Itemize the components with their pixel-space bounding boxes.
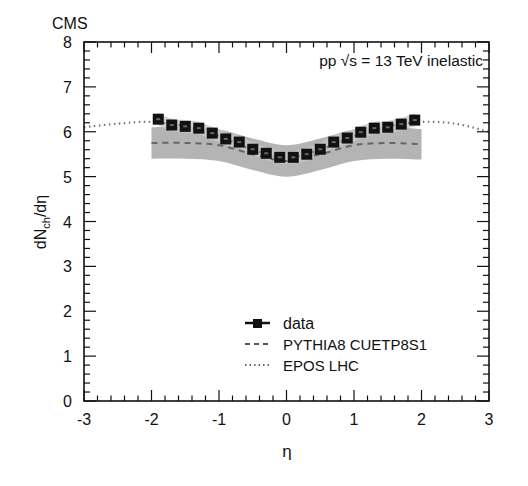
legend-label-epos: EPOS LHC bbox=[283, 357, 359, 374]
data-point-errbar bbox=[264, 152, 268, 154]
legend-label-pythia: PYTHIA8 CUETP8S1 bbox=[283, 336, 427, 353]
data-point-errbar bbox=[318, 148, 322, 150]
x-axis-label: η bbox=[282, 442, 291, 461]
data-point-errbar bbox=[224, 138, 228, 140]
y-axis-label: dNch/dη bbox=[32, 195, 52, 249]
y-tick-label: 2 bbox=[63, 303, 72, 320]
data-point-errbar bbox=[170, 124, 174, 126]
chart-container: -3-2-10123012345678 CMS pp √s = 13 TeV i… bbox=[0, 0, 528, 486]
data-point-errbar bbox=[345, 137, 349, 139]
y-tick-label: 7 bbox=[63, 79, 72, 96]
x-tick-label: -3 bbox=[77, 411, 91, 428]
legend: data PYTHIA8 CUETP8S1 EPOS LHC bbox=[245, 315, 427, 374]
legend-data-marker-icon bbox=[253, 319, 262, 328]
data-point-errbar bbox=[156, 118, 160, 120]
y-tick-label: 5 bbox=[63, 169, 72, 186]
legend-label-data: data bbox=[283, 315, 314, 332]
data-point-errbar bbox=[237, 141, 241, 143]
data-point-errbar bbox=[251, 148, 255, 150]
data-point-errbar bbox=[372, 127, 376, 129]
x-tick-label: 2 bbox=[417, 411, 426, 428]
data-point-errbar bbox=[210, 132, 214, 134]
y-label-tail: /dη bbox=[32, 195, 49, 217]
y-tick-label: 4 bbox=[63, 214, 72, 231]
y-tick-label: 3 bbox=[63, 258, 72, 275]
x-tick-label: -1 bbox=[212, 411, 226, 428]
tick-labels: -3-2-10123012345678 bbox=[63, 34, 493, 428]
data-point-errbar bbox=[359, 131, 363, 133]
chart-title: CMS bbox=[52, 15, 88, 32]
data-point-errbar bbox=[183, 125, 187, 127]
x-tick-label: -2 bbox=[144, 411, 158, 428]
data-point-errbar bbox=[386, 126, 390, 128]
y-tick-label: 1 bbox=[63, 348, 72, 365]
plot-svg: -3-2-10123012345678 CMS pp √s = 13 TeV i… bbox=[0, 0, 528, 486]
data-point-errbar bbox=[197, 127, 201, 129]
x-tick-label: 1 bbox=[350, 411, 359, 428]
y-label-main: dN bbox=[32, 229, 49, 249]
y-tick-label: 8 bbox=[63, 34, 72, 51]
x-tick-label: 0 bbox=[282, 411, 291, 428]
x-tick-label: 3 bbox=[485, 411, 494, 428]
data-point-errbar bbox=[332, 141, 336, 143]
y-tick-label: 0 bbox=[63, 393, 72, 410]
y-tick-label: 6 bbox=[63, 124, 72, 141]
data-point-errbar bbox=[305, 153, 309, 155]
data-point-errbar bbox=[413, 119, 417, 121]
energy-annotation: pp √s = 13 TeV inelastic bbox=[319, 52, 483, 69]
data-point-errbar bbox=[291, 156, 295, 158]
data-point-errbar bbox=[399, 123, 403, 125]
data-point-errbar bbox=[278, 156, 282, 158]
y-label-sub: ch bbox=[40, 217, 52, 229]
